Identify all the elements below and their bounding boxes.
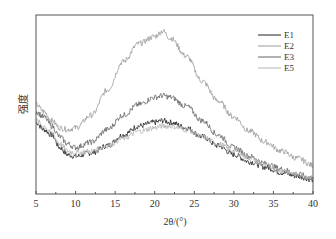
x-tick-label: 40 (308, 198, 318, 209)
plot-lines (36, 29, 313, 182)
x-tick-label: 10 (71, 198, 81, 209)
series-line-e3 (36, 93, 313, 180)
x-tick-label: 5 (34, 198, 39, 209)
x-tick-label: 35 (268, 198, 278, 209)
legend-label-e1: E1 (284, 30, 294, 40)
legend-label-e3: E3 (284, 52, 294, 62)
legend: E1E2E3E5 (258, 30, 294, 73)
x-tick-label: 25 (189, 198, 199, 209)
x-axis-title: 2θ/(°) (163, 216, 186, 228)
y-axis-title: 强度 (17, 94, 29, 114)
xrd-chart: 510152025303540 2θ/(°) 强度 E1E2E3E5 (0, 0, 336, 239)
x-tick-label: 20 (150, 198, 160, 209)
x-tick-label: 30 (229, 198, 239, 209)
legend-label-e5: E5 (284, 63, 294, 73)
x-tick-label: 15 (110, 198, 120, 209)
legend-label-e2: E2 (284, 41, 294, 51)
